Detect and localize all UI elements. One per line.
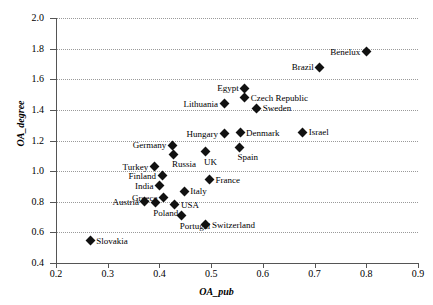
diamond-marker bbox=[157, 171, 167, 181]
x-tick-label-2: 0.4 bbox=[139, 269, 179, 279]
x-tick-label-5: 0.7 bbox=[295, 269, 335, 279]
y-tick-2 bbox=[50, 202, 56, 203]
x-axis-line bbox=[56, 263, 418, 264]
diamond-marker bbox=[169, 149, 179, 159]
data-point-label: Switzerland bbox=[212, 221, 255, 230]
diamond-marker bbox=[315, 62, 325, 72]
diamond-marker bbox=[219, 99, 229, 109]
data-point-label: UK bbox=[204, 158, 217, 167]
data-point-label: Czech Republic bbox=[251, 94, 308, 103]
diamond-marker bbox=[235, 128, 245, 138]
diamond-marker bbox=[219, 129, 229, 139]
data-point-label: Finland bbox=[128, 172, 156, 181]
gridline-y-6 bbox=[56, 79, 418, 80]
diamond-marker bbox=[179, 186, 189, 196]
data-point-label: Austria bbox=[112, 198, 139, 207]
gridline-y-1 bbox=[56, 232, 418, 233]
y-tick-4 bbox=[50, 141, 56, 142]
data-point-label: USA bbox=[181, 201, 199, 210]
data-point-label: Slovakia bbox=[96, 237, 128, 246]
data-point-label: Poland bbox=[153, 209, 178, 218]
diamond-marker bbox=[167, 140, 177, 150]
x-tick-label-7: 0.9 bbox=[398, 269, 433, 279]
y-tick-label-8: 2.0 bbox=[4, 13, 44, 23]
data-point-label: Spain bbox=[238, 153, 259, 162]
data-point-label: Italy bbox=[190, 187, 207, 196]
diamond-marker bbox=[154, 181, 164, 191]
x-tick-label-0: 0.2 bbox=[36, 269, 76, 279]
y-tick-label-3: 1.0 bbox=[4, 166, 44, 176]
diamond-marker bbox=[252, 103, 262, 113]
diamond-marker bbox=[205, 175, 215, 185]
x-tick-label-1: 0.3 bbox=[88, 269, 128, 279]
x-tick-label-4: 0.6 bbox=[243, 269, 283, 279]
data-point-label: Lithuania bbox=[184, 100, 219, 109]
data-point-label: Egypt bbox=[217, 84, 239, 93]
data-point-label: Brazil bbox=[292, 63, 314, 72]
scatter-chart: BeneluxBrazilEgyptCzech RepublicLithuani… bbox=[0, 0, 433, 305]
x-tick-label-6: 0.8 bbox=[346, 269, 386, 279]
y-tick-1 bbox=[50, 232, 56, 233]
data-point-label: France bbox=[216, 176, 241, 185]
y-axis-line bbox=[56, 18, 57, 263]
y-tick-3 bbox=[50, 171, 56, 172]
x-axis-title: OA_pub bbox=[0, 286, 433, 297]
y-tick-8 bbox=[50, 18, 56, 19]
gridline-y-5 bbox=[56, 110, 418, 111]
y-tick-label-2: 0.8 bbox=[4, 197, 44, 207]
plot-area: BeneluxBrazilEgyptCzech RepublicLithuani… bbox=[56, 18, 418, 263]
diamond-marker bbox=[201, 147, 211, 157]
y-tick-7 bbox=[50, 49, 56, 50]
diamond-marker bbox=[235, 142, 245, 152]
x-tick-label-3: 0.5 bbox=[191, 269, 231, 279]
gridline-y-2 bbox=[56, 202, 418, 203]
diamond-marker bbox=[298, 127, 308, 137]
data-point-label: Sweden bbox=[263, 104, 292, 113]
data-point-label: Denmark bbox=[246, 129, 280, 138]
data-point-label: Benelux bbox=[330, 48, 360, 57]
diamond-marker bbox=[85, 236, 95, 246]
data-point-label: Russia bbox=[172, 160, 196, 169]
data-point-label: India bbox=[135, 182, 154, 191]
gridline-y-4 bbox=[56, 141, 418, 142]
data-point-label: Germany bbox=[133, 141, 167, 150]
diamond-marker bbox=[149, 162, 159, 172]
y-tick-6 bbox=[50, 79, 56, 80]
gridline-y-8 bbox=[56, 18, 418, 19]
diamond-marker bbox=[177, 211, 187, 221]
gridline-y-3 bbox=[56, 171, 418, 172]
y-axis-title: OA_degree bbox=[15, 84, 26, 164]
data-point-label: Hungary bbox=[187, 130, 219, 139]
y-tick-5 bbox=[50, 110, 56, 111]
y-tick-label-0: 0.4 bbox=[4, 258, 44, 268]
diamond-marker bbox=[240, 93, 250, 103]
data-point-label: Israel bbox=[309, 128, 329, 137]
y-tick-label-1: 0.6 bbox=[4, 227, 44, 237]
y-tick-label-7: 1.8 bbox=[4, 44, 44, 54]
